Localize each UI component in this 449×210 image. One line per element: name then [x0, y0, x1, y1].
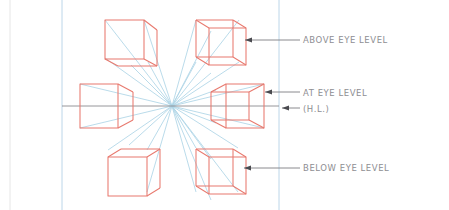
cube-group [80, 20, 264, 196]
cube-bottom-right [196, 149, 246, 194]
leader-above-eye-level [245, 37, 300, 42]
cube-top-left [105, 20, 157, 66]
leader-arrow-left-icon [265, 89, 272, 94]
perspective-diagram-page: ABOVE EYE LEVEL AT EYE LEVEL (H.L.) BELO… [0, 0, 449, 210]
leader-line-group [244, 37, 300, 170]
label-at-eye-level: AT EYE LEVEL [303, 89, 367, 98]
leader-arrow-left-icon [282, 105, 289, 110]
label-above-eye-level: ABOVE EYE LEVEL [303, 36, 388, 45]
label-horizon-line-abbrev: (H.L.) [303, 105, 329, 114]
leader-arrow-left-icon [244, 165, 251, 170]
leader-below-eye-level [244, 165, 300, 170]
drawing-canvas [0, 0, 449, 210]
label-below-eye-level: BELOW EYE LEVEL [303, 164, 389, 173]
cube-bottom-left [108, 149, 160, 196]
leader-horizon-abbrev [282, 105, 300, 110]
leader-at-eye-level [265, 89, 300, 94]
